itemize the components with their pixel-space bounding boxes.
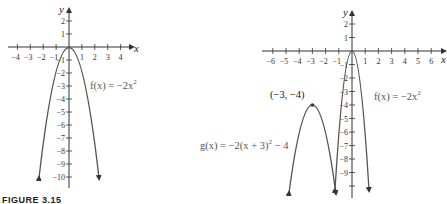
svg-text:1: 1 <box>344 34 348 43</box>
svg-text:−2: −2 <box>319 57 328 66</box>
right-y-axis-label: y <box>342 6 348 18</box>
svg-text:4: 4 <box>119 53 123 62</box>
svg-text:−2: −2 <box>37 53 46 62</box>
left-x-tick-labels: −4 −3 −2 −1 1 2 3 4 <box>11 53 122 62</box>
svg-text:1: 1 <box>61 30 65 39</box>
left-y-axis-label: y <box>58 3 64 15</box>
left-graph: x y −4 −3 −2 −1 1 2 3 4 <box>8 3 139 188</box>
svg-text:2: 2 <box>376 57 380 66</box>
svg-text:−4: −4 <box>56 95 65 104</box>
right-y-tick-labels: 2 1 −1 −2 −3 −4 −5 −6 −7 −8 −9 <box>339 20 348 178</box>
svg-text:5: 5 <box>416 57 420 66</box>
svg-text:1: 1 <box>80 53 84 62</box>
svg-text:−7: −7 <box>339 142 348 151</box>
svg-text:4: 4 <box>403 57 407 66</box>
vertex-label: (−3, −4) <box>270 89 305 101</box>
right-x-axis-label: x <box>440 53 446 65</box>
svg-text:−6: −6 <box>267 57 276 66</box>
vertex-point <box>311 103 315 107</box>
svg-text:−8: −8 <box>339 155 348 164</box>
svg-text:−3: −3 <box>339 88 348 97</box>
svg-text:−6: −6 <box>339 128 348 137</box>
svg-text:2: 2 <box>61 17 65 26</box>
figure-canvas: x y −4 −3 −2 −1 1 2 3 4 <box>0 0 447 204</box>
svg-text:2: 2 <box>344 20 348 29</box>
right-f-label: f(x) = −2x2 <box>374 89 421 103</box>
svg-text:3: 3 <box>390 57 394 66</box>
svg-text:−2: −2 <box>56 69 65 78</box>
svg-text:−8: −8 <box>56 147 65 156</box>
svg-text:−3: −3 <box>24 53 33 62</box>
left-y-tick-labels: 2 1 −1 −2 −3 −4 −5 −6 −7 −8 −9 −10 <box>52 17 65 182</box>
svg-text:−3: −3 <box>56 82 65 91</box>
right-g-label: g(x) = −2(x + 3)2 − 4 <box>200 138 289 152</box>
svg-text:−9: −9 <box>339 169 348 178</box>
svg-text:6: 6 <box>429 57 433 66</box>
right-g-curve <box>289 105 336 193</box>
svg-text:−5: −5 <box>56 108 65 117</box>
figure-caption: FIGURE 3.15 <box>2 195 62 204</box>
svg-text:−9: −9 <box>56 160 65 169</box>
left-f-label: f(x) = −2x2 <box>90 78 137 92</box>
svg-text:−4: −4 <box>11 53 20 62</box>
svg-text:1: 1 <box>363 57 367 66</box>
svg-text:−10: −10 <box>52 173 65 182</box>
left-x-axis-label: x <box>133 42 139 54</box>
svg-text:−4: −4 <box>293 57 302 66</box>
svg-text:−3: −3 <box>306 57 315 66</box>
svg-text:−7: −7 <box>56 134 65 143</box>
svg-text:2: 2 <box>93 53 97 62</box>
svg-text:3: 3 <box>106 53 110 62</box>
right-graph: x y −6 −5 −4 −3 −2 −1 1 2 3 4 <box>200 6 446 198</box>
svg-text:−6: −6 <box>56 121 65 130</box>
svg-text:−5: −5 <box>280 57 289 66</box>
